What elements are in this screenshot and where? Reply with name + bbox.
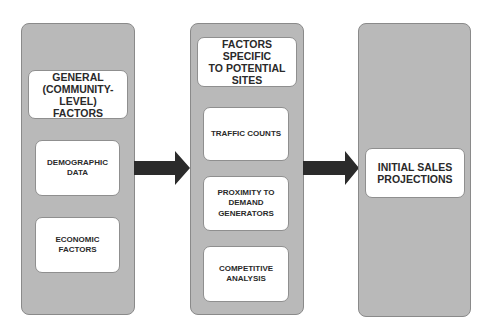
proximity-box: PROXIMITY TO DEMAND GENERATORS xyxy=(203,176,289,231)
initial-sales-projections-label: INITIAL SALES PROJECTIONS xyxy=(377,161,452,185)
arrow-right-icon xyxy=(134,150,192,186)
traffic-counts-box: TRAFFIC COUNTS xyxy=(203,107,289,161)
economic-factors-box: ECONOMIC FACTORS xyxy=(35,217,120,273)
traffic-counts-label: TRAFFIC COUNTS xyxy=(211,129,281,140)
general-factors-header-box: GENERAL (COMMUNITY- LEVEL) FACTORS xyxy=(28,70,128,119)
arrow-right-icon xyxy=(303,150,361,186)
competitive-analysis-box: COMPETITIVE ANALYSIS xyxy=(203,246,289,302)
demographic-data-label: DEMOGRAPHIC DATA xyxy=(47,158,108,179)
competitive-analysis-label: COMPETITIVE ANALYSIS xyxy=(219,264,273,285)
initial-sales-projections-box: INITIAL SALES PROJECTIONS xyxy=(365,148,465,198)
proximity-label: PROXIMITY TO DEMAND GENERATORS xyxy=(217,188,274,220)
site-factors-header-box: FACTORS SPECIFIC TO POTENTIAL SITES xyxy=(197,37,297,87)
general-factors-header: GENERAL (COMMUNITY- LEVEL) FACTORS xyxy=(42,71,113,119)
site-factors-header: FACTORS SPECIFIC TO POTENTIAL SITES xyxy=(198,38,296,86)
demographic-data-box: DEMOGRAPHIC DATA xyxy=(35,140,120,196)
economic-factors-label: ECONOMIC FACTORS xyxy=(56,235,100,256)
